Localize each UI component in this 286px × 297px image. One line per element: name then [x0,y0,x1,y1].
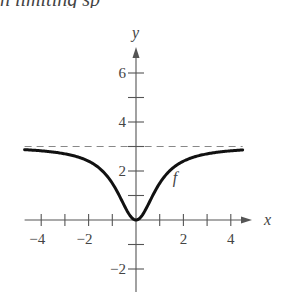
curve-f [25,150,243,220]
y-tick-label: 6 [119,65,127,81]
x-axis-arrow-icon [241,217,252,224]
y-axis-arrow-icon [133,47,140,58]
curve-f-label: f [173,169,180,187]
x-tick-label: −4 [29,231,45,247]
y-tick-label: 2 [119,163,127,179]
y-tick-label: −2 [110,261,126,277]
x-tick-label: 2 [180,231,188,247]
function-graph: −4−224642−2xyf [0,0,286,297]
curve-f-path [25,150,243,220]
x-tick-label: −2 [77,231,93,247]
axes [25,47,252,292]
y-tick-label: 4 [119,114,127,130]
x-tick-label: 4 [227,231,235,247]
x-axis-label: x [263,211,271,228]
y-axis-label: y [130,24,140,42]
